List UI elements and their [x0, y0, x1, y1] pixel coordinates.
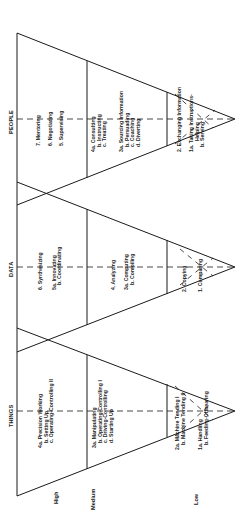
- people-high-list: 7. Mentoring 6. Negotiating 5. Supervisi…: [36, 111, 65, 146]
- data-low-b-list: 1. Comparing: [198, 259, 204, 292]
- people-low-b-list: 1a. Taking Instructions- Helping b. Serv…: [189, 94, 206, 152]
- data-medium-b-list: 3a. Computing b. Compiling: [124, 254, 135, 290]
- things-low-b-list: 1a. Handling b. Feeding-Offbearing: [198, 391, 209, 450]
- level-medium: Medium: [91, 489, 97, 510]
- list-item: b. Coordinating: [57, 247, 63, 290]
- data-medium-a-list: 4. Analyzing: [111, 260, 117, 290]
- data-high-list: 6. Synthesizing 5a. Innovating b. Coordi…: [38, 247, 63, 290]
- list-item: 2. Exchanging Information: [177, 87, 183, 152]
- things-low-a-list: 2a. Machine Tending I b. Machine Tending…: [175, 393, 186, 450]
- people-medium-a-list: 4a. Consulting b. Instructing c. Treatin…: [91, 114, 108, 152]
- list-item: b. Compiling: [130, 254, 136, 290]
- people-low-a-list: 2. Exchanging Information: [177, 87, 183, 152]
- heading-things: THINGS: [9, 405, 15, 427]
- list-item: b. Feeding-Offbearing: [204, 391, 210, 450]
- list-item: 1. Comparing: [198, 259, 204, 292]
- data-low-a-list: 2. Copying: [182, 265, 188, 292]
- things-high-list: 4a. Precision Working b. Setting Up c. O…: [38, 379, 55, 448]
- list-item: 6. Synthesizing: [38, 247, 44, 290]
- list-item: c. Treating: [102, 114, 108, 152]
- level-low: Low: [194, 494, 200, 505]
- heading-people: PEOPLE: [9, 110, 15, 134]
- list-item: 4. Analyzing: [111, 260, 117, 290]
- list-item: b. Machine Tending II: [181, 393, 187, 450]
- level-high: High: [54, 492, 60, 504]
- list-item: d. Starting Up: [109, 380, 115, 448]
- people-medium-b-list: 3a. Sourcing Information b. Persuading c…: [119, 91, 141, 152]
- list-item: d. Diverting: [136, 91, 142, 152]
- list-item: 7. Mentoring: [36, 111, 42, 146]
- things-medium-a-list: 3a. Manipulating b. Operating-Controllin…: [92, 380, 114, 448]
- list-item: 2. Copying: [182, 265, 188, 292]
- list-item: 6. Negotiating: [48, 111, 54, 146]
- list-item: b. Serving: [200, 94, 206, 152]
- list-item: 5. Supervising: [59, 111, 65, 146]
- heading-data: DATA: [9, 261, 15, 277]
- list-item: c. Operating-Controlling II: [49, 379, 55, 448]
